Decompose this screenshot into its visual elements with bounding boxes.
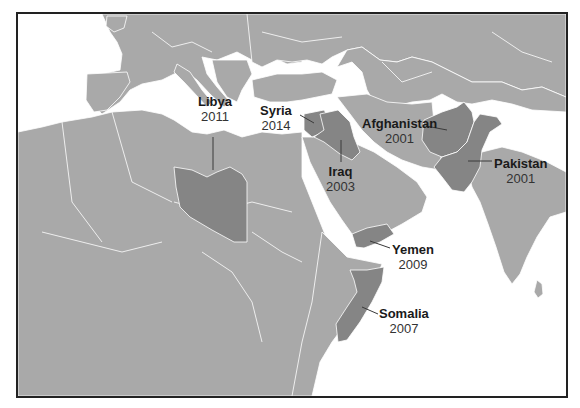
country-name: Iraq (326, 165, 355, 180)
country-year: 2001 (362, 132, 437, 147)
iberia-landmass (86, 72, 130, 112)
country-year: 2003 (326, 180, 355, 195)
north-africa-landmass (18, 110, 342, 396)
label-iraq: Iraq 2003 (326, 165, 355, 195)
country-name: Pakistan (494, 157, 547, 172)
country-name: Yemen (392, 243, 434, 258)
sri-lanka-landmass (534, 280, 543, 298)
turkey-landmass (252, 72, 337, 102)
label-libya: Libya 2011 (198, 95, 232, 125)
country-year: 2014 (260, 119, 292, 134)
label-somalia: Somalia 2007 (379, 307, 429, 337)
label-yemen: Yemen 2009 (392, 243, 434, 273)
map-canvas (18, 14, 566, 396)
country-name: Afghanistan (362, 117, 437, 132)
label-afghanistan: Afghanistan 2001 (362, 117, 437, 147)
country-year: 2001 (494, 172, 547, 187)
label-syria: Syria 2014 (260, 104, 292, 134)
country-year: 2011 (198, 110, 232, 125)
country-year: 2009 (392, 258, 434, 273)
country-name: Libya (198, 95, 232, 110)
country-name: Syria (260, 104, 292, 119)
map-frame: Libya 2011 Syria 2014 Iraq 2003 Afghanis… (16, 12, 568, 398)
label-pakistan: Pakistan 2001 (494, 157, 547, 187)
country-name: Somalia (379, 307, 429, 322)
country-year: 2007 (379, 322, 429, 337)
